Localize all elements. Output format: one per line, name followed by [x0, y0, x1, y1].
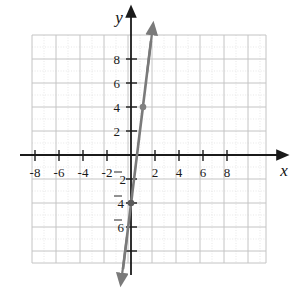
grid-minor-lines [32, 35, 266, 263]
graph-canvas: -8 -6 -4 -2 2 4 6 8 8 6 4 2 2 4 6 x [0, 0, 305, 290]
x-tick-label-neg6: -6 [54, 165, 65, 180]
y-tick-label-neg2: 2 [120, 172, 127, 187]
y-tick-label-2: 2 [114, 124, 121, 139]
x-tick-label-2: 2 [152, 165, 159, 180]
x-tick-label-8: 8 [224, 165, 231, 180]
x-tick-label-neg4: -4 [78, 165, 89, 180]
grid-major-lines [32, 35, 266, 263]
y-tick-label-neg4: 4 [118, 196, 125, 211]
y-tick-label-neg6: 6 [118, 220, 125, 235]
plotted-line-arrow-up [147, 33, 152, 73]
point-y-intercept [128, 200, 135, 207]
y-tick-label-4: 4 [114, 100, 121, 115]
x-tick-label-4: 4 [176, 165, 183, 180]
x-tick-label-neg8: -8 [30, 165, 41, 180]
y-axis-label: y [113, 8, 123, 27]
y-tick-label-6: 6 [114, 76, 121, 91]
plotted-line-arrow-down [122, 237, 127, 275]
y-tick-labels: 8 6 4 2 2 4 6 [114, 52, 127, 235]
x-tick-label-neg2: -2 [102, 165, 113, 180]
x-tick-label-6: 6 [200, 165, 207, 180]
point-one-four [140, 104, 147, 111]
x-axis-label: x [279, 161, 288, 180]
y-tick-label-8: 8 [114, 52, 121, 67]
x-tick-labels: -8 -6 -4 -2 2 4 6 8 [30, 165, 231, 180]
coordinate-plane-figure: -8 -6 -4 -2 2 4 6 8 8 6 4 2 2 4 6 x [0, 0, 305, 290]
